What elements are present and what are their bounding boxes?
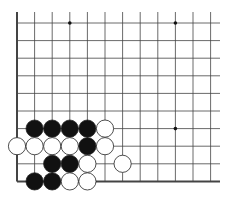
black-stone bbox=[44, 155, 61, 172]
black-stone bbox=[44, 120, 61, 137]
white-stone bbox=[79, 155, 96, 172]
black-stone bbox=[61, 155, 78, 172]
star-point-icon bbox=[174, 127, 178, 131]
star-point-icon bbox=[174, 21, 178, 25]
black-stone bbox=[79, 138, 96, 155]
white-stone bbox=[61, 138, 78, 155]
white-stone bbox=[44, 138, 61, 155]
star-point-icon bbox=[68, 21, 72, 25]
white-stone bbox=[96, 120, 113, 137]
black-stone bbox=[79, 120, 96, 137]
white-stone bbox=[8, 138, 25, 155]
white-stone bbox=[114, 155, 131, 172]
white-stone bbox=[61, 173, 78, 190]
black-stone bbox=[61, 120, 78, 137]
black-stone bbox=[26, 120, 43, 137]
white-stone bbox=[26, 138, 43, 155]
stones-layer bbox=[8, 120, 131, 190]
go-board bbox=[0, 0, 231, 209]
white-stone bbox=[79, 173, 96, 190]
black-stone bbox=[44, 173, 61, 190]
white-stone bbox=[96, 138, 113, 155]
black-stone bbox=[26, 173, 43, 190]
